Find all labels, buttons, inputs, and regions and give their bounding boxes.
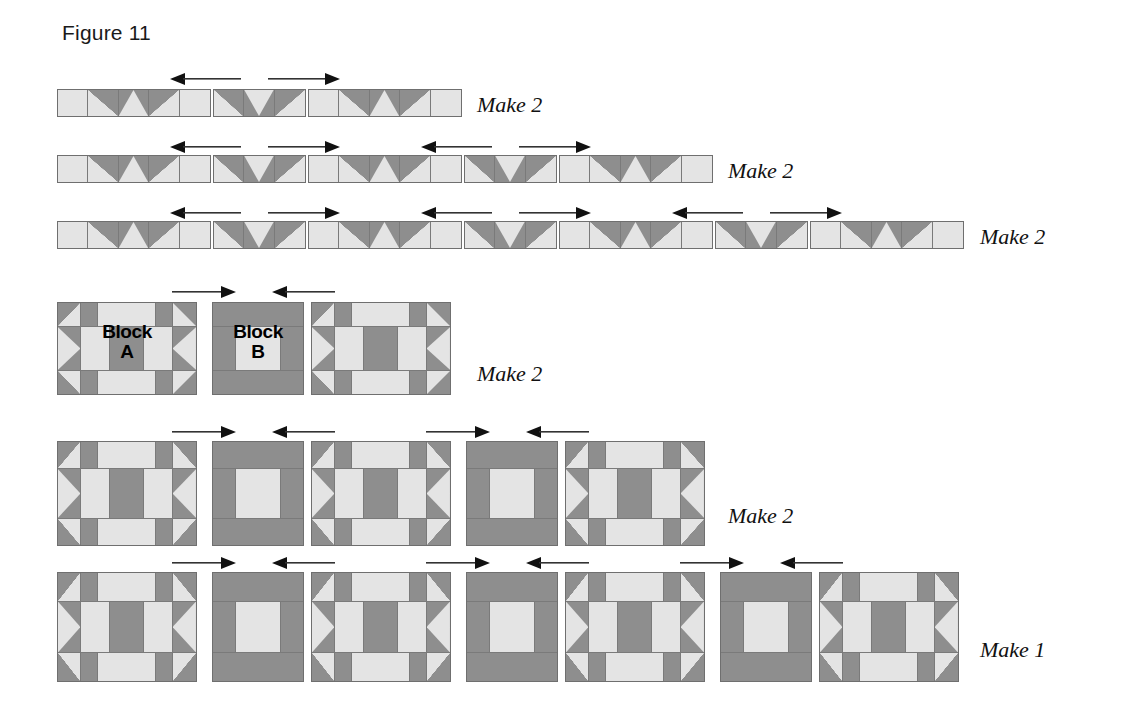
cell-light-bar	[98, 303, 156, 326]
cell-center-light	[744, 602, 789, 653]
cell-dark-bar	[721, 602, 744, 653]
cell-light-bar	[144, 469, 173, 518]
unit-flying-goose-up	[119, 156, 149, 182]
cell-corner-hst	[173, 653, 196, 681]
unit-hst	[465, 222, 495, 248]
cell-dark-bar	[335, 442, 352, 468]
cell-center-dark	[618, 469, 651, 518]
cell-corner-hst	[935, 573, 958, 601]
cell-corner-hst	[312, 519, 335, 545]
cell-corner-hst	[312, 442, 335, 468]
press-arrow-right	[268, 72, 340, 86]
unit-hst	[339, 90, 369, 116]
cell-light-bar	[98, 519, 156, 545]
cell-dark-bar	[589, 573, 606, 601]
cell-dark-bar	[156, 303, 173, 326]
unit-hst	[88, 222, 118, 248]
cell-corner-hst	[58, 442, 81, 468]
quilt-block-a	[311, 572, 451, 682]
press-arrow-right	[172, 556, 236, 570]
cell-dark-bar	[81, 519, 98, 545]
unit-flying-goose-up	[370, 156, 400, 182]
quilt-block-b	[720, 572, 812, 682]
cell-dark-bar	[467, 653, 557, 681]
cell-dark-bar	[721, 573, 811, 601]
cell-flying-goose-right	[312, 602, 335, 653]
unit-flying-goose-up	[872, 222, 902, 248]
unit-hst	[88, 156, 118, 182]
unit-hst	[590, 222, 620, 248]
unit-hst	[149, 222, 179, 248]
unit-hst	[590, 156, 620, 182]
cell-corner-hst	[820, 653, 843, 681]
cell-dark-bar	[410, 303, 427, 326]
cell-corner-hst	[566, 573, 589, 601]
press-arrow-left	[526, 425, 590, 439]
unit-hst	[716, 222, 746, 248]
press-arrow-right	[172, 285, 236, 299]
unit-flying-goose-down	[244, 90, 274, 116]
unit-flying-goose-down	[495, 222, 525, 248]
cell-dark-bar	[281, 602, 304, 653]
cell-flying-goose-left	[427, 469, 450, 518]
strip-segment-b	[213, 155, 306, 183]
unit-light-square	[431, 90, 461, 116]
quilt-block-b: Block B	[212, 302, 304, 395]
cell-corner-hst	[427, 303, 450, 326]
cell-dark-bar	[589, 519, 606, 545]
quilt-block-b	[212, 572, 304, 682]
unit-hst	[400, 90, 430, 116]
cell-center-dark	[872, 602, 905, 653]
cell-dark-bar	[213, 519, 303, 545]
cell-dark-bar	[843, 653, 860, 681]
cell-dark-bar	[410, 653, 427, 681]
quilt-block-a	[311, 302, 451, 395]
unit-flying-goose-up	[370, 222, 400, 248]
cell-light-bar	[335, 602, 364, 653]
quilt-block-a	[57, 572, 197, 682]
unit-flying-goose-down	[244, 156, 274, 182]
cell-dark-bar	[789, 602, 812, 653]
press-arrow-left	[421, 140, 493, 154]
cell-light-bar	[606, 653, 664, 681]
cell-corner-hst	[312, 653, 335, 681]
quilt-block-a	[565, 572, 705, 682]
cell-flying-goose-right	[58, 327, 81, 370]
unit-light-square	[933, 222, 963, 248]
cell-dark-bar	[213, 469, 236, 518]
quilt-block-b	[466, 572, 558, 682]
cell-light-bar	[606, 442, 664, 468]
unit-flying-goose-down	[746, 222, 776, 248]
strip-segment-b	[464, 221, 557, 249]
strip-segment-a	[57, 155, 211, 183]
cell-light-bar	[81, 469, 110, 518]
unit-hst	[88, 90, 118, 116]
unit-flying-goose-up	[621, 222, 651, 248]
cell-dark-bar	[664, 573, 681, 601]
cell-corner-hst	[58, 573, 81, 601]
cell-dark-bar	[589, 442, 606, 468]
cell-center-light	[490, 469, 535, 518]
press-arrow-right	[680, 556, 744, 570]
cell-light-bar	[860, 653, 918, 681]
cell-corner-hst	[312, 573, 335, 601]
strip-segment-a	[308, 221, 462, 249]
strip-segment-a	[559, 221, 713, 249]
cell-center-dark	[618, 602, 651, 653]
cell-flying-goose-right	[58, 469, 81, 518]
cell-corner-hst	[427, 371, 450, 394]
cell-dark-bar	[81, 371, 98, 394]
cell-corner-hst	[681, 519, 704, 545]
unit-hst	[339, 222, 369, 248]
cell-corner-hst	[566, 653, 589, 681]
cell-light-bar	[589, 469, 618, 518]
cell-light-bar	[398, 602, 427, 653]
cell-light-bar	[652, 602, 681, 653]
press-arrow-right	[770, 206, 842, 220]
cell-dark-bar	[535, 602, 558, 653]
cell-dark-bar	[589, 653, 606, 681]
cell-corner-hst	[820, 573, 843, 601]
quilt-block-a: Block A	[57, 302, 197, 395]
strip-segment-b	[464, 155, 557, 183]
unit-flying-goose-up	[119, 90, 149, 116]
